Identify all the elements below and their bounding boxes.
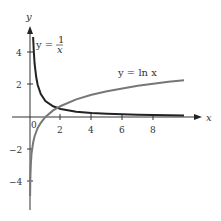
svg-text:6: 6 <box>119 125 125 135</box>
x-axis-arrow-icon <box>194 114 202 120</box>
svg-text:2: 2 <box>57 125 63 135</box>
svg-text:y =: y = <box>35 39 53 50</box>
svg-text:8: 8 <box>150 125 156 135</box>
origin-label: 0 <box>31 120 37 130</box>
y-axis-label: y <box>25 11 32 22</box>
chart: x y 0 2 4 6 8 4 2 −2 −4 y = 1 x y = ln x <box>0 0 221 221</box>
y-axis-arrow-icon <box>27 26 33 34</box>
svg-text:−2: −2 <box>9 145 22 155</box>
label-reciprocal: y = 1 x <box>35 34 64 55</box>
svg-text:−4: −4 <box>9 177 23 187</box>
label-ln: y = ln x <box>117 67 157 78</box>
x-axis-label: x <box>206 112 212 123</box>
curve-ln <box>30 80 184 196</box>
svg-text:4: 4 <box>16 48 22 58</box>
svg-text:2: 2 <box>16 80 22 90</box>
curve-reciprocal <box>33 37 184 115</box>
svg-text:4: 4 <box>88 125 94 135</box>
svg-text:x: x <box>57 44 63 55</box>
